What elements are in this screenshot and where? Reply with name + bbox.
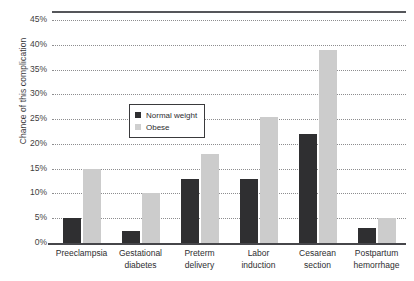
- x-axis-category-label: Preeclampsia: [52, 248, 111, 260]
- bar[interactable]: [260, 117, 278, 243]
- y-axis-tick-label: 35%: [30, 64, 47, 74]
- x-axis-label-line: Preeclampsia: [52, 248, 111, 260]
- x-axis-label-line: Gestational: [111, 248, 170, 260]
- top-divider-rule: [52, 11, 406, 13]
- x-axis-category-label: Postpartumhemorrhage: [347, 248, 406, 271]
- y-axis-title: Chance of this complication: [18, 6, 28, 176]
- x-axis-label-line: diabetes: [111, 260, 170, 272]
- legend-item-normal-weight: Normal weight: [135, 109, 197, 121]
- bar[interactable]: [319, 50, 337, 243]
- legend-swatch-icon-obese: [135, 124, 141, 130]
- x-axis-labels: PreeclampsiaGestationaldiabetesPretermde…: [52, 248, 406, 281]
- bar-group: [52, 20, 111, 243]
- legend-label-normal-weight: Normal weight: [146, 111, 197, 120]
- bar[interactable]: [201, 154, 219, 243]
- bar[interactable]: [181, 179, 199, 243]
- x-axis-category-label: Gestationaldiabetes: [111, 248, 170, 271]
- x-axis-label-line: hemorrhage: [347, 260, 406, 272]
- legend-label-obese: Obese: [146, 123, 170, 132]
- legend-item-obese: Obese: [135, 121, 197, 133]
- bar-series-layer: [52, 20, 406, 243]
- bar[interactable]: [378, 218, 396, 243]
- y-axis-tick-label: 0%: [35, 237, 47, 247]
- x-axis-label-line: section: [288, 260, 347, 272]
- bar-group: [229, 20, 288, 243]
- bar[interactable]: [299, 134, 317, 243]
- chart-root: Chance of this complication 0%5%10%15%20…: [0, 0, 414, 281]
- bar[interactable]: [83, 169, 101, 243]
- bar[interactable]: [63, 218, 81, 243]
- y-axis-tick-label: 40%: [30, 39, 47, 49]
- y-axis-tick-label: 15%: [30, 163, 47, 173]
- x-axis-label-line: Preterm: [170, 248, 229, 260]
- x-axis-label-line: Cesarean: [288, 248, 347, 260]
- legend-swatch-icon-normal-weight: [135, 112, 141, 118]
- y-axis-tick-label: 20%: [30, 138, 47, 148]
- bar[interactable]: [122, 231, 140, 243]
- y-axis-tick-label: 45%: [30, 14, 47, 24]
- x-axis-category-label: Cesareansection: [288, 248, 347, 271]
- y-axis-tick-label: 10%: [30, 187, 47, 197]
- x-axis-label-line: induction: [229, 260, 288, 272]
- bar[interactable]: [142, 193, 160, 243]
- bar[interactable]: [240, 179, 258, 243]
- y-axis-tick-label: 30%: [30, 88, 47, 98]
- x-axis-label-line: Labor: [229, 248, 288, 260]
- bar-group: [288, 20, 347, 243]
- y-axis-tick-label: 25%: [30, 113, 47, 123]
- y-axis-tick-label: 5%: [35, 212, 47, 222]
- bar-group: [347, 20, 406, 243]
- plot-area: 0%5%10%15%20%25%30%35%40%45% Normal weig…: [52, 20, 406, 243]
- x-axis-label-line: delivery: [170, 260, 229, 272]
- x-axis-category-label: Laborinduction: [229, 248, 288, 271]
- x-axis-baseline: [48, 243, 406, 245]
- bar[interactable]: [358, 228, 376, 243]
- x-axis-label-line: Postpartum: [347, 248, 406, 260]
- chart-legend: Normal weight Obese: [129, 104, 205, 138]
- x-axis-category-label: Pretermdelivery: [170, 248, 229, 271]
